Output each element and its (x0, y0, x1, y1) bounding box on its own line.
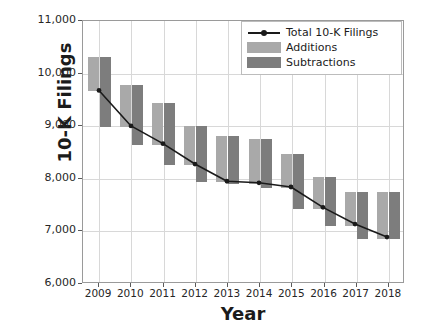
x-tick-mark (259, 283, 260, 287)
x-tick-mark (356, 283, 357, 287)
y-tick-label: 9,000 (0, 118, 76, 131)
x-tick-mark (195, 283, 196, 287)
x-tick-mark (291, 283, 292, 287)
legend-item: Total 10-K Filings (247, 25, 396, 40)
x-tick-mark (227, 283, 228, 287)
data-point-marker (289, 185, 294, 190)
x-tick-label: 2018 (358, 287, 418, 299)
data-point-marker (193, 162, 198, 167)
total-filings-line (99, 90, 387, 237)
data-point-marker (353, 222, 358, 227)
data-point-marker (321, 205, 326, 210)
x-tick-mark (388, 283, 389, 287)
legend-item: Additions (247, 40, 396, 55)
data-point-marker (385, 235, 390, 240)
y-tick-label: 8,000 (0, 171, 76, 184)
legend-item: Subtractions (247, 55, 396, 70)
chart-legend: Total 10-K FilingsAdditionsSubtractions (241, 21, 402, 75)
x-tick-mark (163, 283, 164, 287)
data-point-marker (161, 141, 166, 146)
x-tick-mark (130, 283, 131, 287)
x-tick-mark (98, 283, 99, 287)
legend-swatch (247, 26, 281, 39)
x-tick-mark (324, 283, 325, 287)
y-tick-label: 6,000 (0, 276, 76, 289)
legend-label: Total 10-K Filings (286, 26, 378, 39)
legend-swatch (247, 57, 281, 68)
data-point-marker (97, 88, 102, 93)
legend-swatch (247, 42, 281, 53)
y-axis-title: 10-K Filings (54, 33, 75, 173)
data-point-marker (129, 124, 134, 129)
y-tick-label: 10,000 (0, 66, 76, 79)
data-point-marker (257, 180, 262, 185)
figure: 10-K Filings 6,0007,0008,0009,00010,0001… (0, 0, 430, 333)
x-axis-title: Year (82, 303, 404, 324)
y-tick-label: 7,000 (0, 223, 76, 236)
y-tick-mark (78, 283, 82, 284)
data-point-marker (225, 179, 230, 184)
legend-label: Additions (286, 41, 337, 54)
legend-label: Subtractions (286, 56, 355, 69)
y-tick-label: 11,000 (0, 13, 76, 26)
total-filings-markers (97, 88, 390, 239)
